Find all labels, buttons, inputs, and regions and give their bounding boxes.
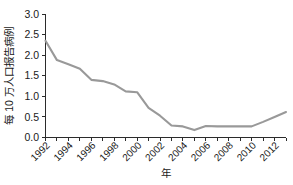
line-chart: 3.02.52.01.51.00.50.0 199219941996199820… <box>0 0 293 185</box>
y-tick-label: 0.5 <box>24 111 39 123</box>
x-axis-title: 年 <box>161 167 171 179</box>
y-tick-label: 0.0 <box>24 131 39 143</box>
y-tick-label: 2.5 <box>24 28 39 40</box>
y-tick-label: 1.5 <box>24 69 39 81</box>
chart-container: 3.02.52.01.51.00.50.0 199219941996199820… <box>0 0 293 185</box>
y-tick-label: 1.0 <box>24 90 39 102</box>
y-tick-label: 3.0 <box>24 8 39 20</box>
y-axis-title: 每 10 万人口报告病例 <box>3 27 15 125</box>
y-tick-label: 2.0 <box>24 49 39 61</box>
